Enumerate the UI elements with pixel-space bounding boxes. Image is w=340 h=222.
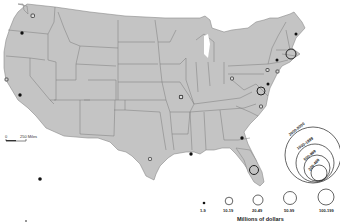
symbol-hawaii[interactable] (38, 177, 42, 181)
symbol-oregon[interactable] (20, 31, 23, 34)
legend-label-100-199: 100-199 (319, 208, 334, 213)
symbol-new-jersey[interactable] (276, 70, 279, 73)
symbol-alaska[interactable] (25, 220, 27, 222)
us-map: 0 250 Miles 2000- (0, 0, 340, 222)
legend-title: Millions of dollars (237, 216, 284, 222)
symbol-pennsylvania[interactable] (266, 69, 269, 72)
scale-start-label: 0 (5, 134, 8, 139)
scale-end-label: 250 Miles (20, 134, 37, 139)
legend-label-50-99: 50-99 (284, 208, 295, 213)
legend-label-10-19: 10-19 (223, 208, 234, 213)
symbol-maine[interactable] (295, 33, 298, 36)
symbol-kentucky[interactable] (180, 96, 183, 99)
symbol-texas[interactable] (149, 158, 152, 161)
symbol-louisiana[interactable] (189, 152, 192, 155)
legend-dot-1-9 (203, 202, 206, 205)
symbol-new-york[interactable] (276, 59, 279, 62)
symbol-washington[interactable] (31, 14, 35, 18)
symbol-california-north[interactable] (5, 78, 8, 81)
scale-bar: 0 250 Miles (5, 134, 37, 141)
legend-label-1-9: 1-9 (200, 208, 207, 213)
legend-circle-20-49 (253, 195, 263, 205)
symbol-georgia[interactable] (240, 136, 243, 139)
legend-circle-10-19 (225, 197, 233, 205)
symbol-california-south[interactable] (18, 93, 21, 96)
symbol-ohio[interactable] (231, 77, 234, 80)
symbol-maryland[interactable] (267, 83, 270, 86)
symbol-north-carolina[interactable] (260, 105, 263, 108)
legend-label-1000-1999: 1000-1999 (296, 135, 315, 151)
legend-label-20-49: 20-49 (252, 208, 263, 213)
